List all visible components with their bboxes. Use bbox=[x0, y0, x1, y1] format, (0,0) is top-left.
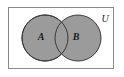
venn-diagram: A B U bbox=[0, 0, 124, 77]
universal-set-label: U bbox=[101, 13, 109, 24]
set-b-label: B bbox=[72, 31, 80, 42]
venn-diagram-canvas: A B U bbox=[0, 0, 124, 77]
set-a-label: A bbox=[37, 31, 45, 42]
